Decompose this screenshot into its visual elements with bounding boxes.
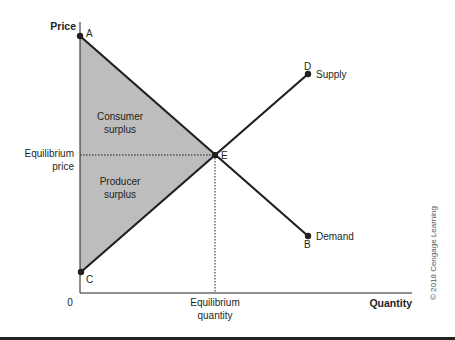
price-axis-label: Price [50, 20, 76, 32]
equilibrium-price-label-1: Equilibrium [25, 148, 74, 159]
equilibrium-quantity-label-1: Equilibrium [190, 297, 239, 308]
point-e-marker [212, 152, 218, 158]
point-b-label: B [304, 239, 311, 250]
surplus-area [80, 36, 215, 272]
point-d-label: D [304, 61, 311, 72]
point-a-marker [77, 33, 83, 39]
surplus-diagram: Price Quantity 0 Equilibrium price Equil… [0, 0, 455, 340]
equilibrium-quantity-label-2: quantity [197, 310, 232, 321]
origin-label: 0 [67, 297, 73, 308]
producer-surplus-label-1: Producer [100, 176, 141, 187]
point-c-label: C [86, 274, 93, 285]
consumer-surplus-label-2: surplus [104, 124, 136, 135]
quantity-axis-label: Quantity [369, 297, 412, 309]
producer-surplus-label-2: surplus [104, 189, 136, 200]
point-e-label: E [221, 150, 228, 161]
demand-label: Demand [316, 231, 354, 242]
point-a-label: A [86, 28, 93, 39]
copyright-notice: © 2018 Cengage Learning [429, 206, 438, 300]
equilibrium-price-label-2: price [52, 161, 74, 172]
consumer-surplus-label-1: Consumer [97, 111, 144, 122]
supply-label: Supply [316, 69, 347, 80]
point-c-marker [78, 269, 84, 275]
